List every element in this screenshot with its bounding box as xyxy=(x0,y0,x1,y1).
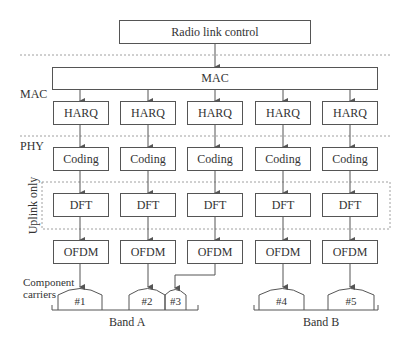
ofdm-box-1: OFDM xyxy=(53,240,109,264)
uplink-only-label: Uplink only xyxy=(27,181,41,229)
component-carriers-label-line1: Component xyxy=(23,276,74,288)
dft-box-2: DFT xyxy=(120,193,176,217)
carrier-2-label: #2 xyxy=(129,295,165,307)
phy-layer-label: PHY xyxy=(20,139,44,154)
band-b-label: Band B xyxy=(303,315,339,330)
carrier-1-label: #1 xyxy=(58,295,102,307)
ofdm-box-2: OFDM xyxy=(120,240,176,264)
ofdm-box-5: OFDM xyxy=(322,240,378,264)
dft-box-1: DFT xyxy=(53,193,109,217)
component-carriers-label-line2: carriers xyxy=(23,288,56,300)
ofdm-box-3: OFDM xyxy=(187,240,243,264)
coding-box-5: Coding xyxy=(322,147,378,171)
carrier-4-label: #4 xyxy=(259,295,304,307)
radio-link-control-box: Radio link control xyxy=(119,20,311,44)
harq-box-5: HARQ xyxy=(322,101,378,125)
carrier-5-label: #5 xyxy=(328,295,374,307)
coding-box-4: Coding xyxy=(255,147,311,171)
carrier-3-label: #3 xyxy=(165,295,186,307)
connector-lines xyxy=(0,0,407,342)
harq-box-2: HARQ xyxy=(120,101,176,125)
harq-box-1: HARQ xyxy=(53,101,109,125)
mac-layer-label: MAC xyxy=(20,87,47,102)
mac-box: MAC xyxy=(52,67,378,90)
ofdm-box-4: OFDM xyxy=(255,240,311,264)
dft-box-4: DFT xyxy=(255,193,311,217)
carrier-aggregation-diagram: Radio link control MAC MAC PHY Uplink on… xyxy=(0,0,407,342)
coding-box-3: Coding xyxy=(187,147,243,171)
band-a-label: Band A xyxy=(109,315,145,330)
dft-box-5: DFT xyxy=(322,193,378,217)
harq-box-3: HARQ xyxy=(187,101,243,125)
coding-box-2: Coding xyxy=(120,147,176,171)
coding-box-1: Coding xyxy=(53,147,109,171)
harq-box-4: HARQ xyxy=(255,101,311,125)
dft-box-3: DFT xyxy=(187,193,243,217)
